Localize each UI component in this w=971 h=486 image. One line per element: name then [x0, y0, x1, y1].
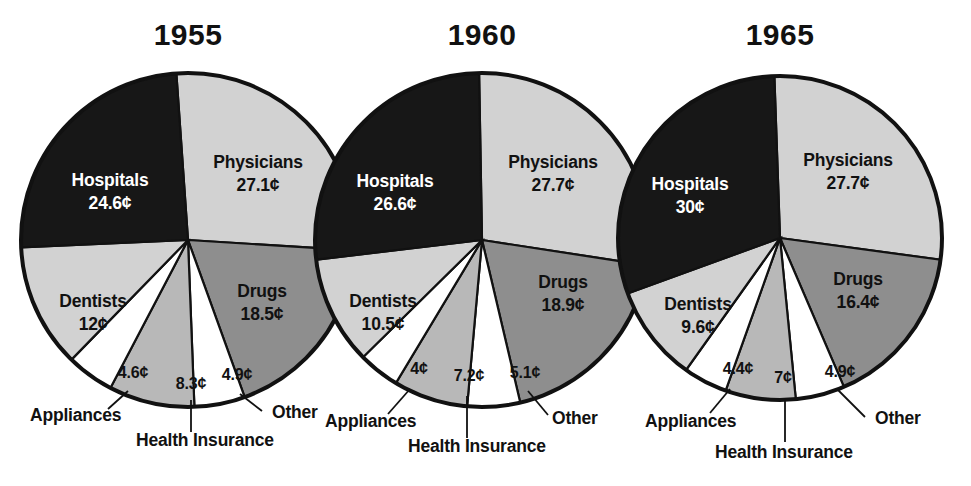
slice-value-health-insurance: 7.2¢ [454, 367, 485, 384]
slice-value-drugs: 18.5¢ [241, 304, 284, 324]
slice-value-drugs: 18.9¢ [542, 295, 585, 315]
slice-value-dentists: 10.5¢ [362, 314, 405, 334]
callout-label-other: Other [272, 402, 318, 422]
slice-label-physicians: Physicians [213, 152, 303, 172]
callout-label-other: Other [552, 408, 598, 428]
slice-value-hospitals: 24.6¢ [89, 193, 132, 213]
slice-value-physicians: 27.7¢ [827, 173, 870, 193]
callout-label-other: Other [875, 408, 921, 428]
slice-value-dentists: 9.6¢ [681, 317, 715, 337]
pie-title-1955: 1955 [154, 18, 223, 51]
slice-label-dentists: Dentists [59, 291, 127, 311]
callout-label-appliances: Appliances [645, 411, 737, 431]
leader-line-appliances [710, 389, 730, 413]
slice-label-physicians: Physicians [508, 152, 598, 172]
pie-chart-figure: Physicians27.1¢Drugs18.5¢4.9¢Other8.3¢He… [0, 0, 971, 486]
pie-slice-hospitals[interactable] [315, 73, 482, 260]
slice-label-drugs: Drugs [833, 269, 883, 289]
callout-label-health-insurance: Health Insurance [715, 442, 853, 462]
slice-label-hospitals: Hospitals [72, 170, 149, 190]
slice-value-appliances: 4¢ [410, 360, 428, 377]
slice-label-drugs: Drugs [538, 272, 588, 292]
slice-label-physicians: Physicians [803, 150, 893, 170]
slice-value-hospitals: 26.6¢ [374, 194, 417, 214]
leader-line-other [838, 390, 865, 417]
callout-label-appliances: Appliances [30, 405, 122, 425]
pie-group-1955: Physicians27.1¢Drugs18.5¢4.9¢Other8.3¢He… [21, 18, 355, 450]
pie-group-1965: Physicians27.7¢Drugs16.4¢4.9¢Other7¢Heal… [618, 18, 942, 462]
pie-slice-hospitals[interactable] [21, 73, 188, 247]
slice-value-appliances: 4.6¢ [118, 364, 149, 381]
slice-value-health-insurance: 8.3¢ [176, 375, 207, 392]
slice-value-physicians: 27.1¢ [237, 175, 280, 195]
slice-value-physicians: 27.7¢ [532, 175, 575, 195]
slice-value-dentists: 12¢ [79, 314, 108, 334]
slice-value-health-insurance: 7¢ [774, 369, 792, 386]
slice-value-appliances: 4.4¢ [723, 360, 754, 377]
pie-title-1965: 1965 [746, 18, 815, 51]
pie-group-1960: Physicians27.7¢Drugs18.9¢5.1¢Other7.2¢He… [315, 18, 649, 456]
callout-label-appliances: Appliances [325, 411, 417, 431]
slice-value-drugs: 16.4¢ [837, 292, 880, 312]
slice-value-other: 5.1¢ [510, 364, 541, 381]
callout-label-health-insurance: Health Insurance [408, 436, 546, 456]
pie-chart-canvas: Physicians27.1¢Drugs18.5¢4.9¢Other8.3¢He… [0, 0, 971, 486]
slice-label-dentists: Dentists [664, 294, 732, 314]
slice-label-hospitals: Hospitals [652, 174, 729, 194]
callout-label-health-insurance: Health Insurance [136, 430, 274, 450]
slice-label-hospitals: Hospitals [357, 171, 434, 191]
slice-value-other: 4.9¢ [825, 363, 856, 380]
slice-value-hospitals: 30¢ [676, 197, 705, 217]
pie-title-1960: 1960 [448, 18, 517, 51]
slice-label-dentists: Dentists [349, 291, 417, 311]
slice-value-other: 4.9¢ [222, 366, 253, 383]
slice-label-drugs: Drugs [237, 281, 287, 301]
